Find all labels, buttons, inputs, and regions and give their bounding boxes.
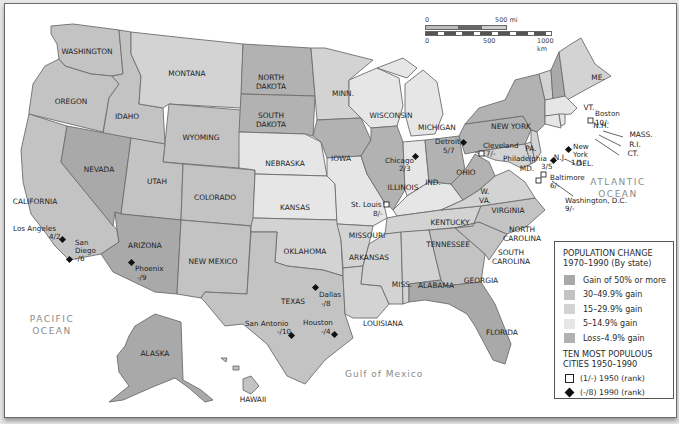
label-pennsylvania: PA. <box>525 144 536 153</box>
legend-item: Gain of 50% or more <box>564 273 673 288</box>
city-rank-san-antonio: -/10 <box>277 327 292 336</box>
city-name-st-louis: St. Louis <box>351 200 382 209</box>
label-maryland: MD. <box>520 164 534 173</box>
label-rhode-island: R.I. <box>629 140 641 149</box>
label-missouri: MISSOURI <box>349 231 385 240</box>
city-marker-square <box>541 172 546 177</box>
legend-item: 5–14.9% gain <box>564 317 673 332</box>
state-florida <box>409 280 511 364</box>
label-texas: TEXAS <box>280 297 305 306</box>
label-north-carolina-1: NORTH <box>509 225 535 234</box>
legend-symbol-1950: (1/-) 1950 (rank) <box>565 372 673 386</box>
label-north-carolina-2: CAROLINA <box>503 234 541 243</box>
label-alabama: ALABAMA <box>418 281 454 290</box>
label-colorado: COLORADO <box>194 193 236 202</box>
legend-cities-title-line1: TEN MOST POPULOUS <box>563 349 673 359</box>
label-iowa: IOWA <box>331 154 351 163</box>
label-ohio: OHIO <box>456 168 476 177</box>
legend-box: POPULATION CHANGE 1970–1990 (By state) G… <box>554 241 674 399</box>
label-kentucky: KENTUCKY <box>430 218 470 227</box>
city-rank-san-diego: -/6 <box>75 254 85 263</box>
square-icon <box>565 374 574 383</box>
scale-km-start: 0 <box>425 37 429 45</box>
city-rank-dallas: -/8 <box>321 299 331 308</box>
label-vermont: VT. <box>583 103 594 112</box>
state-hawaii <box>221 358 259 394</box>
legend-swatch <box>564 304 575 314</box>
city-rank-boston: 10/- <box>595 118 610 127</box>
state-connecticut <box>545 114 561 128</box>
label-florida: FLORIDA <box>486 328 518 337</box>
legend-items: Gain of 50% or more 30–49.9% gain 15–29.… <box>555 273 673 346</box>
label-hawaii: HAWAII <box>240 395 267 404</box>
legend-swatch <box>564 290 575 300</box>
scale-km-end: 1000 km <box>537 37 555 53</box>
city-rank-chicago: 2/3 <box>399 164 411 173</box>
label-south-dakota-2: DAKOTA <box>256 120 286 129</box>
label-washington: WASHINGTON <box>61 47 112 56</box>
map-frame: WASHINGTON OREGON CALIFORNIA IDAHO NEVAD… <box>4 3 677 418</box>
legend-title-line2: 1970–1990 (By state) <box>563 258 673 268</box>
label-michigan: MICHIGAN <box>418 123 456 132</box>
label-montana: MONTANA <box>168 69 205 78</box>
legend-label: Loss–4.9% gain <box>583 334 645 343</box>
scale-bar: 0 500 mi 0 500 1000 km <box>425 16 555 46</box>
label-west-virginia-2: VA. <box>479 196 491 205</box>
label-new-mexico: NEW MEXICO <box>188 257 237 266</box>
city-rank-baltimore: 6/- <box>550 181 560 190</box>
label-north-dakota-2: DAKOTA <box>256 82 286 91</box>
city-rank-detroit: 5/7 <box>443 146 455 155</box>
city-name-phoenix: Phoenix <box>135 264 164 273</box>
scale-km-mid: 500 <box>483 37 495 45</box>
label-tennessee: TENNESSEE <box>425 240 470 249</box>
scale-mi-bar <box>425 25 507 30</box>
label-indiana: IND. <box>425 178 441 187</box>
state-alaska <box>109 314 213 402</box>
legend-item: 15–29.9% gain <box>564 302 673 317</box>
label-maine: ME. <box>591 73 604 82</box>
city-marker-square <box>384 202 389 207</box>
label-minnesota: MINN. <box>332 89 354 98</box>
city-name-houston: Houston <box>303 318 333 327</box>
city-rank-los-angeles: 4/2 <box>49 232 61 241</box>
state-maine <box>559 38 611 100</box>
scale-km-bar <box>425 31 552 36</box>
legend-symbol-1990: (-/8) 1990 (rank) <box>565 386 673 400</box>
label-california: CALIFORNIA <box>13 197 57 206</box>
label-oklahoma: OKLAHOMA <box>284 247 327 256</box>
label-virginia: VIRGINIA <box>491 206 524 215</box>
city-rank-phoenix: -/9 <box>137 273 147 282</box>
label-idaho: IDAHO <box>115 112 139 121</box>
legend-item: 30–49.9% gain <box>564 288 673 303</box>
city-rank-cleveland: 7/- <box>486 149 496 158</box>
pacific-ocean-label-1: PACIFIC <box>30 314 74 324</box>
city-marker-square <box>536 178 541 183</box>
label-south-carolina-2: CAROLINA <box>492 257 530 266</box>
city-name-dallas: Dallas <box>319 290 341 299</box>
legend-label: Gain of 50% or more <box>583 276 666 285</box>
label-nevada: NEVADA <box>84 165 114 174</box>
legend-swatch <box>564 333 575 343</box>
legend-label: 5–14.9% gain <box>583 319 637 328</box>
label-massachusetts: MASS. <box>629 130 652 139</box>
city-rank-st-louis: 8/- <box>373 209 383 218</box>
label-connecticut: CT. <box>627 149 638 158</box>
label-south-dakota-1: SOUTH <box>258 111 284 120</box>
label-oregon: OREGON <box>55 97 88 106</box>
state-kansas <box>253 174 337 220</box>
label-south-carolina-1: SOUTH <box>498 248 524 257</box>
scale-mi-start: 0 <box>425 16 429 24</box>
city-rank-washington-dc: 9/- <box>565 204 575 213</box>
label-wyoming: WYOMING <box>182 133 219 142</box>
legend-cities-title: TEN MOST POPULOUS CITIES 1950–1990 <box>563 349 673 369</box>
label-new-york: NEW YORK <box>491 122 531 131</box>
label-alaska: ALASKA <box>141 349 170 358</box>
label-arizona: ARIZONA <box>128 241 162 250</box>
label-arkansas: ARKANSAS <box>349 253 389 262</box>
label-illinois: ILLINOIS <box>388 183 419 192</box>
legend-symbol-label: (-/8) 1990 (rank) <box>580 388 645 397</box>
city-name-boston: Boston <box>595 109 620 118</box>
city-rank-philadelphia: 3/5 <box>541 162 553 171</box>
legend-item: Loss–4.9% gain <box>564 331 673 346</box>
label-nebraska: NEBRASKA <box>265 159 305 168</box>
